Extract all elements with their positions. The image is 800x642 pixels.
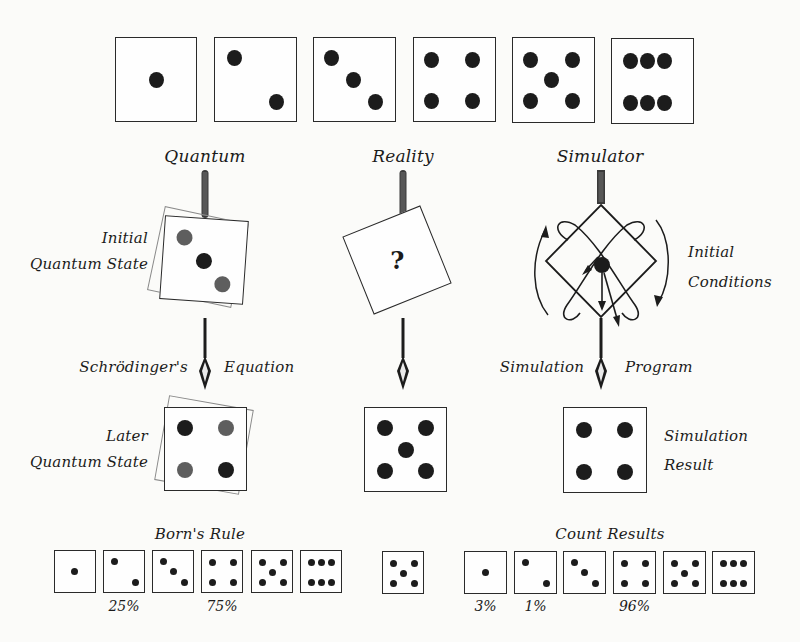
born-pct-face-4: 75%: [201, 598, 243, 614]
simulator-process-left-label: Simulation: [470, 358, 584, 376]
top-die-5: [512, 37, 595, 123]
simulator-initial-conditions-diagram: [530, 195, 670, 340]
born-pct-face-2: 25%: [103, 598, 145, 614]
column-title-quantum: Quantum: [145, 146, 265, 166]
count-die-2: [514, 551, 557, 594]
count-die-6: [712, 551, 755, 594]
simulator-initial-label-line1: Initial: [688, 243, 734, 261]
question-mark: ?: [390, 246, 404, 275]
born-die-3: [152, 550, 194, 593]
count-pct-face-2: 1%: [514, 598, 557, 614]
count-die-4: [613, 551, 656, 594]
count-pct-face-4: 96%: [613, 598, 656, 614]
simulator-process-right-label: Program: [625, 358, 693, 376]
top-die-3: [313, 37, 396, 122]
quantum-initial-label-line1: Initial: [30, 229, 148, 247]
top-die-4: [413, 37, 496, 122]
simulator-result-label-line2: Result: [664, 456, 714, 474]
born-die-5: [251, 550, 293, 593]
count-die-3: [563, 551, 606, 594]
born-rule-title: Born's Rule: [130, 525, 270, 543]
quantum-initial-die: [159, 215, 249, 305]
simulator-result-die: [563, 407, 647, 493]
quantum-initial-label-line2: Quantum State: [10, 255, 148, 273]
top-die-6: [611, 38, 694, 124]
count-die-5: [663, 551, 706, 594]
quantum-later-label-line1: Later: [30, 427, 148, 445]
born-die-4: [201, 550, 243, 593]
quantum-later-die: [164, 407, 247, 491]
born-die-6: [300, 550, 342, 593]
column-title-simulator: Simulator: [540, 146, 660, 166]
reality-bottom-die: [382, 551, 424, 594]
reality-result-die: [364, 407, 447, 492]
quantum-process-left-label: Schrödinger's: [60, 358, 188, 376]
quantum-later-label-line2: Quantum State: [10, 453, 148, 471]
simulator-result-label-line1: Simulation: [664, 427, 748, 445]
reality-unknown-die: ?: [342, 205, 451, 314]
column-title-reality: Reality: [343, 146, 463, 166]
born-die-2: [103, 550, 145, 593]
count-pct-face-1: 3%: [464, 598, 507, 614]
born-die-1: [54, 550, 96, 593]
count-results-title: Count Results: [540, 525, 680, 543]
simulator-initial-label-line2: Conditions: [688, 273, 772, 291]
count-die-1: [464, 551, 507, 594]
quantum-process-right-label: Equation: [224, 358, 294, 376]
top-die-2: [214, 37, 297, 122]
top-die-1: [115, 37, 197, 122]
